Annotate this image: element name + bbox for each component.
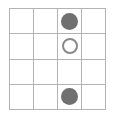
grid-cell-r2c1[interactable] bbox=[10, 34, 34, 59]
open-circle-marker bbox=[62, 38, 78, 54]
grid-cell-r3c4[interactable] bbox=[82, 60, 106, 85]
grid-cell-r4c3[interactable] bbox=[58, 85, 82, 110]
grid-cell-r4c4[interactable] bbox=[82, 85, 106, 110]
grid-cell-r4c2[interactable] bbox=[34, 85, 58, 110]
grid-cell-r2c3[interactable] bbox=[58, 34, 82, 59]
grid-cell-r1c1[interactable] bbox=[10, 9, 34, 34]
filled-circle-marker bbox=[61, 88, 78, 105]
grid-cell-r3c2[interactable] bbox=[34, 60, 58, 85]
grid-cell-r1c3[interactable] bbox=[58, 9, 82, 34]
grid-cell-r3c3[interactable] bbox=[58, 60, 82, 85]
grid-cell-r2c4[interactable] bbox=[82, 34, 106, 59]
grid-cell-r2c2[interactable] bbox=[34, 34, 58, 59]
grid-cell-r4c1[interactable] bbox=[10, 85, 34, 110]
grid-cell-r3c1[interactable] bbox=[10, 60, 34, 85]
filled-circle-marker bbox=[61, 13, 78, 30]
grid bbox=[9, 8, 106, 110]
grid-cell-r1c4[interactable] bbox=[82, 9, 106, 34]
grid-cell-r1c2[interactable] bbox=[34, 9, 58, 34]
marker-grid-diagram bbox=[0, 0, 114, 117]
